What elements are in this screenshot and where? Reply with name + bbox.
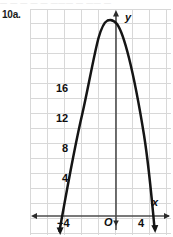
parabola-curve	[30, 9, 171, 235]
figure-container: — — — — — ——— — —— — 10a.	[0, 0, 173, 237]
coordinate-plane	[30, 9, 171, 235]
x-tick-label-4: 4	[138, 218, 144, 229]
y-tick-label-12: 12	[56, 113, 68, 124]
curve-arrow-right-icon	[151, 225, 158, 233]
x-axis-label: x	[152, 197, 158, 208]
problem-number-label: 10a.	[2, 9, 21, 20]
x-tick-label-negative-4: −4	[57, 218, 70, 229]
origin-label: O	[104, 217, 113, 228]
y-tick-label-16: 16	[56, 83, 68, 94]
y-axis-label: y	[125, 12, 131, 23]
y-tick-label-8: 8	[62, 143, 68, 154]
clipped-text-artifact: — — — — — ——— — —— —	[0, 0, 173, 5]
y-tick-label-4: 4	[62, 173, 68, 184]
